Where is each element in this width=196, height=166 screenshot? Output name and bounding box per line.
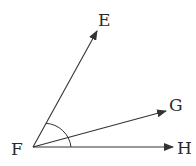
angle-diagram: E F G H: [0, 0, 196, 166]
label-h: H: [177, 140, 192, 157]
ray-fe: [33, 31, 97, 147]
angle-arc-efh: [46, 123, 71, 147]
label-f: F: [11, 141, 23, 158]
label-e: E: [98, 12, 110, 29]
label-g: G: [169, 97, 183, 114]
ray-fg: [33, 111, 166, 147]
